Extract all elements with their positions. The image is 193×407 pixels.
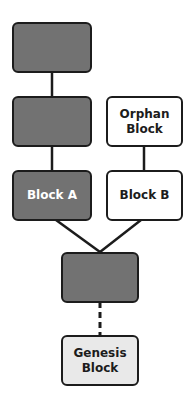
block-a: Block A — [12, 170, 92, 221]
genesis-label-line2: Block — [73, 361, 126, 376]
orphan-label-line2: Block — [120, 122, 170, 137]
block-merge — [61, 252, 139, 303]
block-b-label: Block B — [120, 188, 170, 203]
edge-blocka-merge — [56, 220, 100, 252]
orphan-label-line1: Orphan — [120, 107, 170, 122]
block-a-label: Block A — [27, 188, 77, 203]
genesis-label-line1: Genesis — [73, 346, 126, 361]
genesis-block: Genesis Block — [61, 335, 139, 386]
block-b: Block B — [106, 170, 183, 221]
block-second — [12, 96, 92, 147]
edge-blockb-merge — [100, 220, 141, 252]
orphan-block: Orphan Block — [106, 96, 183, 147]
block-top — [12, 22, 92, 73]
